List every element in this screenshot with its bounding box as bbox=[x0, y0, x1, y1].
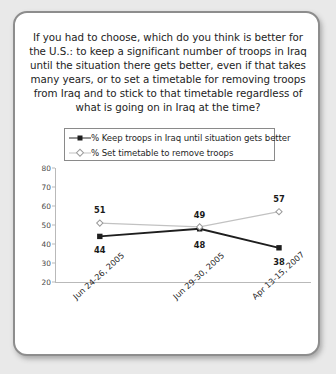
data-point-marker bbox=[97, 220, 103, 226]
data-point-marker bbox=[276, 245, 281, 250]
data-point-value-label: 44 bbox=[94, 245, 106, 255]
poll-chart-card: If you had to choose, which do you think… bbox=[13, 11, 320, 356]
series-line bbox=[100, 212, 279, 227]
data-point-marker bbox=[276, 209, 282, 215]
data-point-value-label: 51 bbox=[94, 205, 106, 215]
series-line bbox=[100, 229, 279, 248]
data-point-value-label: 57 bbox=[273, 194, 285, 204]
chart-plot-area: 20304050607080 444838514957 Jun 24-26, 2… bbox=[15, 13, 320, 356]
data-point-value-label: 48 bbox=[194, 240, 206, 250]
series-lines bbox=[15, 13, 320, 356]
data-point-value-label: 49 bbox=[194, 210, 206, 220]
data-point-marker bbox=[97, 234, 102, 239]
